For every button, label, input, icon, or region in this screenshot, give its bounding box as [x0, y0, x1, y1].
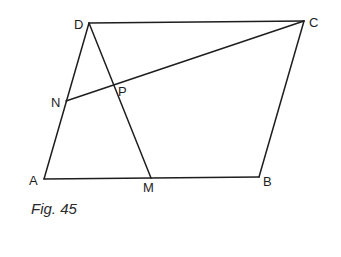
segment-bc — [259, 21, 304, 177]
label-a: A — [29, 173, 38, 188]
figure-caption: Fig. 45 — [31, 200, 78, 217]
label-d: D — [74, 17, 83, 32]
label-n: N — [51, 95, 60, 110]
label-m: M — [143, 180, 154, 195]
label-c: C — [309, 15, 318, 30]
segment-nc — [66, 21, 304, 101]
segment-cd — [89, 21, 304, 23]
label-p: P — [118, 84, 127, 99]
label-b: B — [263, 174, 272, 189]
geometry-figure: D C N P A M B Fig. 45 — [0, 0, 341, 257]
segment-dm — [89, 23, 151, 178]
